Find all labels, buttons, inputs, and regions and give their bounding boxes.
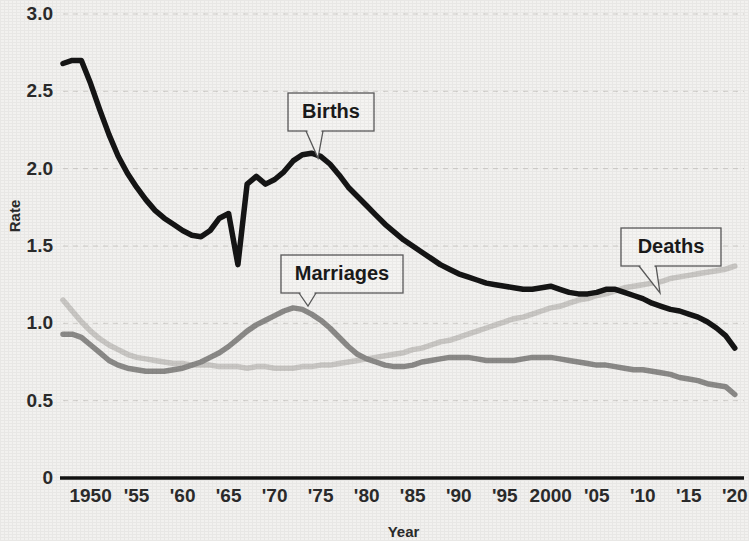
x-axis-tick-label: 1950 [69, 485, 111, 506]
callout-label: Marriages [295, 262, 390, 284]
x-axis-tick-label: '15 [676, 485, 702, 506]
x-axis-tick-label: '55 [124, 485, 150, 506]
chart-container: 00.51.01.52.02.53.01950'55'60'65'70'75'8… [0, 0, 749, 541]
y-axis-tick-label: 0 [42, 467, 53, 488]
series-callout-births: Births [288, 93, 374, 158]
x-axis-tick-label: '10 [630, 485, 656, 506]
x-axis-tick-label: '60 [170, 485, 196, 506]
x-axis-tick-label: '75 [308, 485, 334, 506]
callout-tail [299, 293, 316, 306]
x-axis-tick-label: 2000 [530, 485, 572, 506]
y-axis-tick-label: 2.0 [27, 158, 53, 179]
callout-tail [639, 266, 660, 293]
y-axis-tick-label: 3.0 [27, 3, 53, 24]
x-axis-tick-label: '85 [400, 485, 426, 506]
x-axis-tick-label: '20 [722, 485, 748, 506]
x-axis-tick-label: '95 [492, 485, 518, 506]
y-axis-tick-label: 2.5 [27, 80, 54, 101]
y-axis-tick-label: 0.5 [27, 390, 54, 411]
x-axis-title: Year [388, 523, 420, 540]
y-axis-tick-label: 1.5 [27, 235, 54, 256]
x-axis-tick-label: '70 [262, 485, 288, 506]
x-axis-tick-label: '65 [216, 485, 242, 506]
callout-label: Deaths [638, 235, 705, 257]
x-axis-tick-label: '80 [354, 485, 380, 506]
rate-line-chart: 00.51.01.52.02.53.01950'55'60'65'70'75'8… [0, 0, 749, 541]
callout-label: Births [302, 100, 360, 122]
x-axis-tick-label: '05 [584, 485, 610, 506]
x-axis-tick-label: '90 [446, 485, 472, 506]
series-callout-marriages: Marriages [281, 255, 403, 306]
y-axis-title: Rate [6, 200, 23, 233]
series-line-births [63, 60, 735, 348]
y-axis-tick-label: 1.0 [27, 312, 53, 333]
